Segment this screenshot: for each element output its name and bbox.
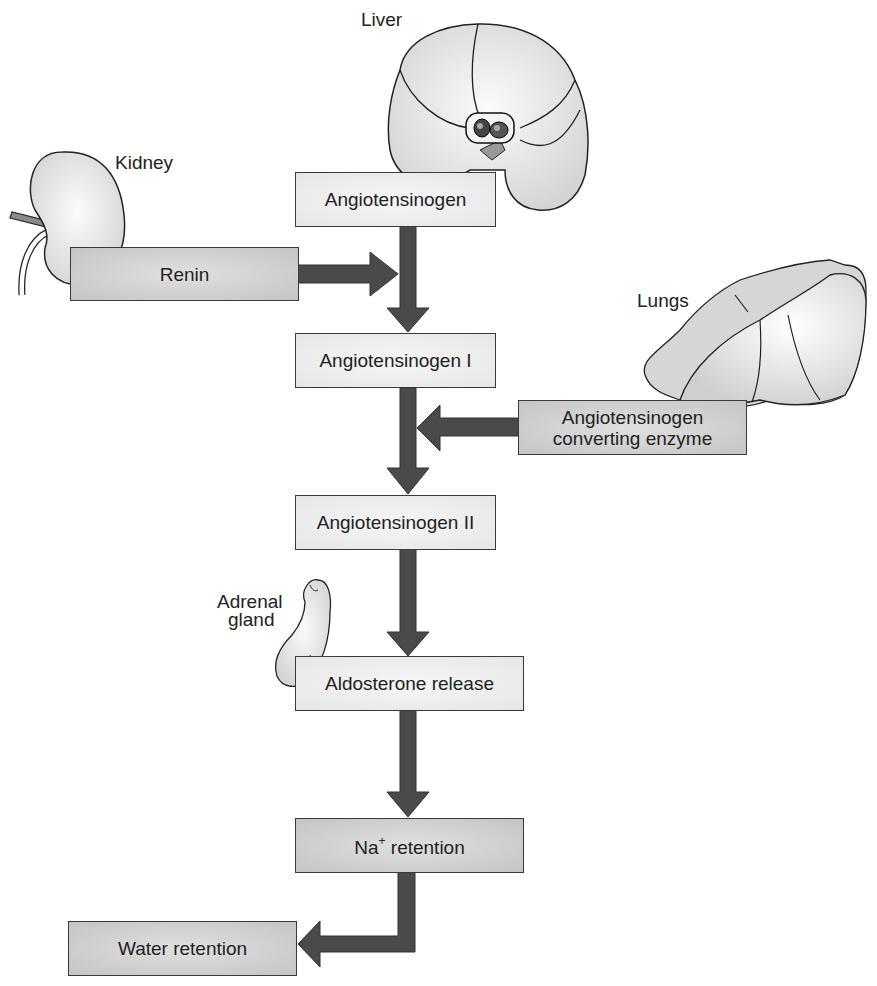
node-ace: Angiotensinogen converting enzyme bbox=[518, 400, 747, 455]
node-ace-text-line2: converting enzyme bbox=[553, 428, 712, 449]
node-aldosterone-text: Aldosterone release bbox=[325, 673, 494, 694]
adrenal-label-line2: gland bbox=[228, 610, 275, 630]
node-water-text: Water retention bbox=[118, 938, 247, 959]
arrow-ace bbox=[417, 405, 519, 451]
lungs-label: Lungs bbox=[637, 291, 689, 311]
node-na-text: Na+ retention bbox=[354, 833, 465, 858]
arrow-na-to-water bbox=[298, 872, 415, 967]
arrow-down-1 bbox=[387, 226, 429, 332]
arrow-renin bbox=[298, 252, 398, 296]
lungs-illustration bbox=[644, 260, 866, 408]
raas-diagram: Liver Kidney Lungs Adrenal gland Angiote… bbox=[0, 0, 877, 986]
node-angiotensinogen-2-text: Angiotensinogen II bbox=[317, 512, 474, 533]
node-renin-text: Renin bbox=[160, 264, 210, 285]
arrow-down-2 bbox=[387, 388, 429, 494]
node-renin: Renin bbox=[70, 247, 299, 301]
node-angiotensinogen-1-text: Angiotensinogen I bbox=[319, 350, 471, 371]
node-water-retention: Water retention bbox=[68, 921, 297, 976]
arrow-down-4 bbox=[387, 710, 429, 817]
node-ace-text-line1: Angiotensinogen bbox=[562, 407, 704, 428]
node-angiotensinogen-2: Angiotensinogen II bbox=[295, 495, 496, 550]
liver-label: Liver bbox=[361, 10, 402, 30]
kidney-label: Kidney bbox=[115, 153, 173, 173]
node-angiotensinogen-1: Angiotensinogen I bbox=[295, 333, 496, 388]
na-retention-word: retention bbox=[386, 837, 465, 858]
na-symbol: Na bbox=[354, 837, 378, 858]
na-charge: + bbox=[379, 834, 386, 848]
node-angiotensinogen-text: Angiotensinogen bbox=[325, 189, 467, 210]
node-aldosterone-release: Aldosterone release bbox=[295, 656, 524, 711]
arrow-down-3 bbox=[387, 549, 429, 656]
node-angiotensinogen: Angiotensinogen bbox=[295, 172, 496, 227]
node-na-retention: Na+ retention bbox=[295, 818, 524, 873]
